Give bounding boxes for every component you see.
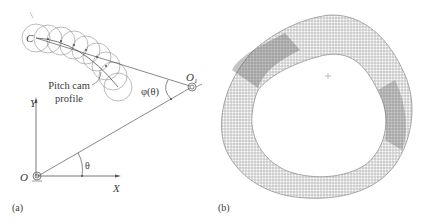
label-theta: θ	[85, 161, 90, 171]
cam-envelope-drawing	[216, 0, 436, 224]
label-o1-letter: O	[186, 71, 194, 83]
label-origin: O	[20, 172, 28, 183]
label-o1-subscript: 1	[194, 77, 198, 85]
callout-line-1: Pitch cam	[41, 79, 97, 92]
panel-a-mechanism-diagram: C O1 O Y X θ φ(θ) Pitch cam profile (a)	[0, 0, 220, 224]
label-y-axis: Y	[30, 98, 36, 109]
label-o1: O1	[186, 72, 197, 85]
label-c: C	[26, 33, 33, 44]
callout-line-2: profile	[41, 92, 97, 105]
panel-b-cam-envelope: (b)	[216, 0, 436, 224]
label-x-axis: X	[113, 183, 120, 194]
center-cross-icon	[325, 73, 331, 79]
caption-a: (a)	[12, 202, 23, 213]
phi-arc	[166, 80, 171, 99]
theta-arc	[78, 153, 83, 176]
cam-ring	[222, 15, 413, 198]
caption-b: (b)	[218, 202, 230, 213]
pivot-o-icon	[32, 172, 42, 181]
pitch-cam-profile-callout: Pitch cam profile	[41, 79, 97, 105]
label-phi: φ(θ)	[141, 87, 159, 98]
